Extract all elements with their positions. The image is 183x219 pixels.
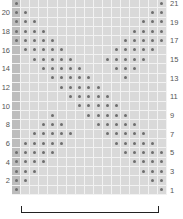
grid-cell [21,186,30,195]
row-label-12: 12 [0,83,10,92]
grid-cell [58,167,67,176]
stitch-dot-cell [140,27,149,36]
grid-cell [39,8,48,17]
row-label-14: 14 [0,64,10,73]
grid-cell [130,111,139,120]
row-label-10: 10 [0,102,10,111]
grid-cell [58,158,67,167]
grid-cell [158,92,167,101]
stitch-dot-cell [30,36,39,45]
grid-cell [58,18,67,27]
grid-cell [149,0,158,8]
grid-cell [21,92,30,101]
stitch-dot-cell [21,167,30,176]
grid-cell [21,130,30,139]
grid-cell [94,8,103,17]
stitch-dot-cell [140,167,149,176]
grid-cell [21,120,30,129]
stitch-dot-cell [103,120,112,129]
grid-cell [39,176,48,185]
grid-cell [130,176,139,185]
stitch-dot-cell [121,74,130,83]
stitch-dot-cell [158,18,167,27]
grid-cell [121,158,130,167]
stitch-dot-cell [58,139,67,148]
grid-cell [140,0,149,8]
grid-cell [76,46,85,55]
grid-cell [130,186,139,195]
stitch-dot-cell [76,102,85,111]
stitch-dot-cell [130,36,139,45]
grid-cell [48,158,57,167]
row-label-4: 4 [0,158,10,167]
grid-cell [94,186,103,195]
grid-cell [112,83,121,92]
stitch-dot-cell [140,148,149,157]
grid-cell [12,120,21,129]
stitch-dot-cell [121,55,130,64]
grid-cell [130,92,139,101]
grid-cell [112,74,121,83]
grid-cell [94,139,103,148]
grid-cell [149,102,158,111]
stitch-dot-cell [130,27,139,36]
grid-cell [140,111,149,120]
stitch-dot-cell [76,64,85,73]
grid-cell [94,130,103,139]
stitch-dot-cell [48,46,57,55]
stitch-dot-cell [149,27,158,36]
stitch-dot-cell [149,18,158,27]
grid-cell [67,8,76,17]
grid-cell [103,148,112,157]
grid-cell [85,36,94,45]
stitch-dot-cell [121,46,130,55]
stitch-dot-cell [158,36,167,45]
grid-cell [48,186,57,195]
grid-cell [12,92,21,101]
stitch-dot-cell [149,139,158,148]
grid-cell [58,186,67,195]
grid-cell [94,55,103,64]
grid-cell [85,167,94,176]
stitch-dot-cell [140,18,149,27]
grid-cell [39,0,48,8]
grid-cell [85,139,94,148]
stitch-dot-cell [48,148,57,157]
grid-cell [76,167,85,176]
grid-cell [121,0,130,8]
grid-cell [103,18,112,27]
grid-cell [30,186,39,195]
grid-cell [158,83,167,92]
stitch-dot-cell [58,64,67,73]
grid-cell [76,148,85,157]
stitch-dot-cell [140,46,149,55]
grid-cell [76,158,85,167]
grid-cell [94,18,103,27]
stitch-dot-cell [39,27,48,36]
stitch-dot-cell [21,18,30,27]
grid-cell [103,139,112,148]
stitch-dot-cell [94,120,103,129]
stitch-dot-cell [94,92,103,101]
stitch-dot-cell [130,120,139,129]
grid-cell [158,120,167,129]
grid-cell [94,0,103,8]
stitch-dot-cell [121,36,130,45]
grid-cell [48,176,57,185]
stitch-dot-cell [67,74,76,83]
grid-cell [30,176,39,185]
stitch-dot-cell [112,55,121,64]
grid-cell [21,83,30,92]
stitch-dot-cell [121,64,130,73]
stitch-dot-cell [48,111,57,120]
stitch-dot-cell [30,158,39,167]
stitch-dot-cell [39,36,48,45]
stitch-dot-cell [30,139,39,148]
stitch-dot-cell [140,36,149,45]
grid-cell [39,102,48,111]
grid-cell [39,111,48,120]
row-label-1: 1 [170,186,174,195]
stitch-dot-cell [48,64,57,73]
grid-cell [85,46,94,55]
grid-cell [149,55,158,64]
